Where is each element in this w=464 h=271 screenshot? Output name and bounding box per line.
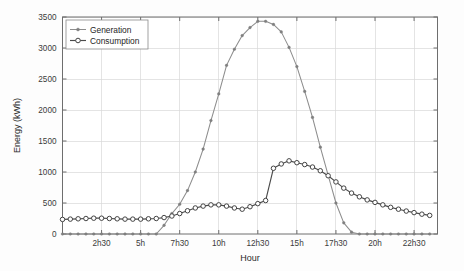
chart-figure: 05001000150020002500300035002h305h7h3010…: [0, 0, 464, 271]
consumption-point: [68, 217, 73, 222]
generation-point: [319, 146, 322, 149]
consumption-point: [427, 213, 432, 218]
consumption-point: [302, 162, 307, 167]
generation-point: [358, 233, 361, 236]
consumption-point: [185, 209, 190, 214]
consumption-point: [170, 214, 175, 219]
generation-point: [147, 233, 150, 236]
legend-label: Consumption: [90, 36, 140, 46]
x-tick-label: 7h30: [171, 239, 190, 248]
consumption-point: [60, 217, 65, 222]
y-tick-label: 2000: [38, 106, 57, 115]
consumption-point: [201, 204, 206, 209]
generation-point: [210, 119, 213, 122]
x-tick-label: 17h30: [325, 239, 348, 248]
generation-point: [69, 233, 72, 236]
generation-point: [139, 233, 142, 236]
chart-legend: GenerationConsumption: [66, 20, 148, 49]
consumption-point: [92, 216, 97, 221]
consumption-point: [388, 205, 393, 210]
consumption-point: [248, 204, 253, 209]
consumption-point: [146, 217, 151, 222]
consumption-point: [326, 173, 331, 178]
generation-point: [178, 203, 181, 206]
consumption-point: [342, 186, 347, 191]
consumption-point: [365, 198, 370, 203]
x-tick-label: 12h30: [246, 239, 269, 248]
generation-point: [233, 48, 236, 51]
consumption-point: [310, 165, 315, 170]
generation-point: [225, 64, 228, 67]
x-tick-label: 20h: [368, 239, 382, 248]
consumption-point: [373, 200, 378, 205]
generation-point: [108, 233, 111, 236]
generation-point: [256, 20, 259, 23]
y-tick-label: 2500: [38, 75, 57, 84]
consumption-point: [162, 215, 167, 220]
x-tick-label: 5h: [136, 239, 146, 248]
generation-point: [124, 233, 127, 236]
grid-lines: [63, 17, 438, 234]
generation-point: [381, 233, 384, 236]
x-tick-label: 22h30: [403, 239, 426, 248]
consumption-point: [76, 217, 81, 222]
y-axis-title: Energy (kWh): [12, 98, 22, 153]
consumption-point: [263, 198, 268, 203]
consumption-point: [287, 159, 292, 164]
generation-point: [303, 90, 306, 93]
legend-label: Generation: [90, 25, 132, 35]
consumption-point: [138, 217, 143, 222]
consumption-point: [381, 203, 386, 208]
y-tick-label: 1500: [38, 137, 57, 146]
consumption-point: [193, 206, 198, 211]
generation-point: [131, 233, 134, 236]
generation-point: [249, 26, 252, 29]
generation-point: [194, 171, 197, 174]
generation-point: [241, 34, 244, 37]
consumption-point: [420, 212, 425, 217]
plot-wrapper: 05001000150020002500300035002h305h7h3010…: [0, 0, 464, 271]
generation-point: [202, 148, 205, 151]
generation-point: [155, 233, 158, 236]
consumption-point: [240, 207, 245, 212]
generation-point: [92, 233, 95, 236]
generation-point: [366, 233, 369, 236]
generation-point: [264, 20, 267, 23]
consumption-point: [177, 211, 182, 216]
consumption-point: [295, 160, 300, 165]
generation-point: [342, 221, 345, 224]
energy-line-chart: 05001000150020002500300035002h305h7h3010…: [0, 0, 464, 271]
generation-point: [421, 233, 424, 236]
generation-point: [186, 189, 189, 192]
generation-point: [389, 233, 392, 236]
consumption-point: [123, 217, 128, 222]
consumption-point: [107, 216, 112, 221]
generation-point: [311, 116, 314, 119]
y-tick-label: 1000: [38, 168, 57, 177]
generation-point: [350, 231, 353, 234]
consumption-point: [209, 203, 214, 208]
generation-point: [397, 233, 400, 236]
consumption-point: [131, 217, 136, 222]
y-tick-label: 3500: [38, 13, 57, 22]
x-axis-title: Hour: [240, 253, 260, 263]
x-tick-label: 15h: [290, 239, 304, 248]
generation-point: [413, 233, 416, 236]
consumption-point: [404, 209, 409, 214]
consumption-point: [256, 201, 261, 206]
consumption-point: [334, 180, 339, 185]
consumption-point: [232, 206, 237, 211]
y-tick-label: 3000: [38, 44, 57, 53]
consumption-point: [271, 166, 276, 171]
generation-point: [280, 31, 283, 34]
consumption-point: [412, 210, 417, 215]
generation-point: [61, 233, 64, 236]
consumption-point: [318, 169, 323, 174]
consumption-point: [349, 191, 354, 196]
consumption-point: [357, 195, 362, 200]
consumption-point: [154, 216, 159, 221]
generation-point: [163, 224, 166, 227]
x-tick-label: 2h30: [92, 239, 111, 248]
generation-point: [428, 233, 431, 236]
consumption-point: [279, 162, 284, 167]
